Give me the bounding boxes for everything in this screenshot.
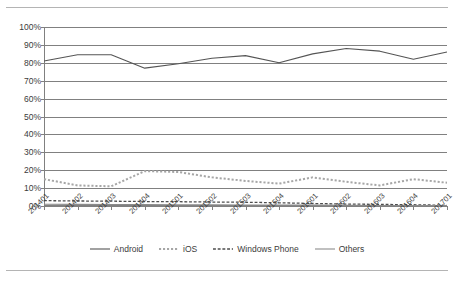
page-rule-top [6, 7, 448, 8]
legend-swatch-icon [90, 245, 110, 253]
legend-swatch-icon [213, 245, 233, 253]
legend-label: Android [114, 245, 143, 254]
y-axis-tick-label: 90% [3, 41, 41, 50]
legend-item-ios[interactable]: iOS [159, 245, 197, 254]
legend-item-windows-phone[interactable]: Windows Phone [213, 245, 298, 254]
legend-label: Windows Phone [237, 245, 298, 254]
y-axis-tick-label: 10% [3, 184, 41, 193]
legend-item-others[interactable]: Others [315, 245, 365, 254]
series-line-ios [44, 171, 447, 186]
legend-label: iOS [183, 245, 197, 254]
y-axis-tick-label: 30% [3, 148, 41, 157]
chart-legend: AndroidiOSWindows PhoneOthers [0, 245, 454, 254]
y-axis-tick-label: 20% [3, 166, 41, 175]
x-axis-labels: 2014012014022014032014042015012015022015… [44, 210, 447, 240]
page-rule-bottom [6, 270, 448, 271]
y-axis: 100%90%80%70%60%50%40%30%20%10%0% [0, 27, 41, 206]
series-container [44, 27, 447, 206]
series-line-android [44, 48, 447, 68]
y-axis-tick-label: 70% [3, 77, 41, 86]
legend-swatch-icon [159, 245, 179, 253]
y-axis-tick-label: 50% [3, 113, 41, 122]
legend-label: Others [339, 245, 365, 254]
y-axis-tick-label: 40% [3, 130, 41, 139]
legend-swatch-icon [315, 245, 335, 253]
y-axis-tick-label: 80% [3, 59, 41, 68]
chart-figure: 100%90%80%70%60%50%40%30%20%10%0% 201401… [0, 0, 454, 284]
y-axis-tick-label: 60% [3, 95, 41, 104]
y-axis-tick-label: 100% [3, 23, 41, 32]
x-axis-tick-mark [447, 206, 448, 210]
legend-item-android[interactable]: Android [90, 245, 143, 254]
